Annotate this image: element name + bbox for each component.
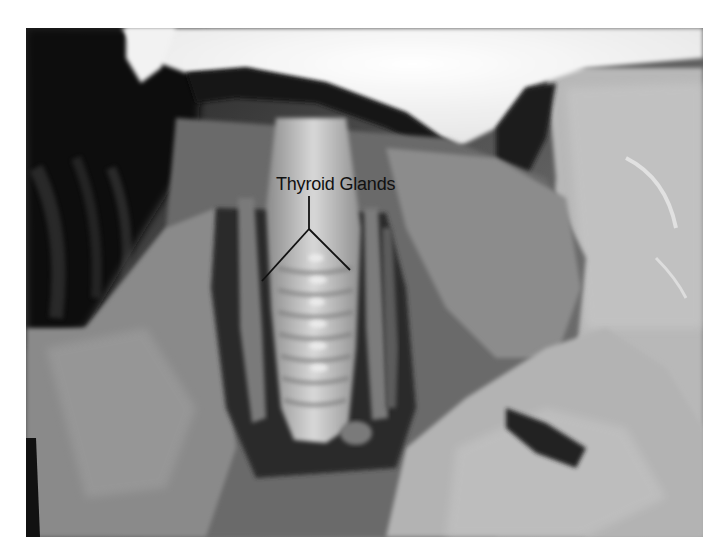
thyroid-glands-label: Thyroid Glands — [276, 174, 395, 194]
dissection-photo: Thyroid Glands — [26, 28, 703, 537]
dissection-scene — [26, 28, 703, 537]
